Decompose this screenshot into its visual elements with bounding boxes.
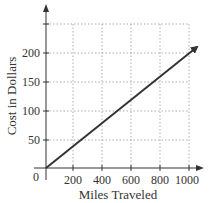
y-tick-label: 200	[22, 46, 40, 60]
x-tick-label: 800	[151, 173, 169, 187]
y-tick-label: 50	[28, 133, 40, 147]
x-axis-arrow-icon	[196, 165, 204, 171]
x-tick-label: 600	[122, 173, 140, 187]
chart: 0 200 400 600 800 1000 50 100 150 200 Mi…	[0, 0, 211, 203]
x-tick-label: 200	[64, 173, 82, 187]
y-tick-label: 150	[22, 75, 40, 89]
origin-label: 0	[33, 170, 39, 184]
x-tick-label: 1000	[175, 173, 199, 187]
x-tick-label: 400	[93, 173, 111, 187]
y-tick-label: 100	[22, 104, 40, 118]
gridlines	[46, 24, 189, 168]
x-axis-label: Miles Traveled	[79, 187, 158, 202]
axes	[34, 4, 204, 180]
y-axis-label: Cost in Dollars	[4, 57, 19, 136]
cost-line	[46, 47, 197, 168]
y-axis-arrow-icon	[43, 4, 49, 12]
